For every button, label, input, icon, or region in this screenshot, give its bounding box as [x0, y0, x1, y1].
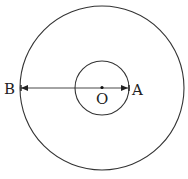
label-a: A [131, 81, 143, 99]
label-o: O [96, 90, 108, 108]
label-b: B [4, 80, 15, 98]
concentric-circles-diagram: B A O [0, 0, 188, 179]
center-point-o [100, 86, 103, 89]
